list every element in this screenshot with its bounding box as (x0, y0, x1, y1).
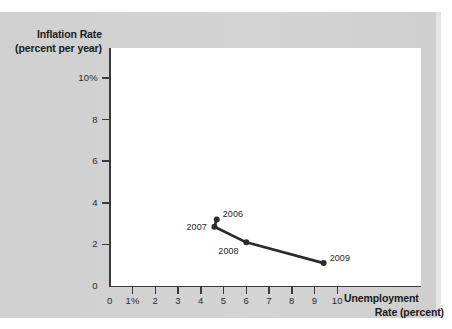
y-axis-title: Inflation Rate (percent per year) (6, 28, 102, 55)
y-axis-title-line1: Inflation Rate (6, 28, 102, 42)
x-tick-mark (268, 287, 270, 294)
x-tick-label-10: 10 (317, 295, 357, 306)
y-tick-label-4: 4 (38, 197, 98, 208)
x-axis-title-line1: Unemployment (344, 291, 448, 305)
data-label-2007: 2007 (186, 222, 206, 232)
y-axis-line (109, 48, 111, 287)
x-tick-mark (177, 287, 179, 294)
x-tick-mark (200, 287, 202, 294)
x-tick-mark (132, 287, 134, 294)
data-label-2008: 2008 (218, 246, 238, 256)
y-tick-mark (102, 244, 109, 246)
y-tick-mark (102, 202, 109, 204)
chart-figure: Inflation Rate (percent per year) Unempl… (0, 0, 452, 329)
y-tick-mark (102, 119, 109, 121)
x-axis-title-line2: Rate (percent) (344, 305, 444, 319)
y-tick-label-0: 0 (38, 280, 98, 291)
y-tick-mark (102, 160, 109, 162)
y-tick-label-6: 6 (38, 155, 98, 166)
figure-panel-shadow (436, 12, 441, 318)
x-tick-mark (155, 287, 157, 294)
y-tick-label-2: 2 (38, 238, 98, 249)
plot-area (110, 48, 421, 286)
x-tick-mark (314, 287, 316, 294)
y-tick-label-10: 10% (38, 72, 98, 83)
x-tick-mark (291, 287, 293, 294)
y-axis-title-line2: (percent per year) (6, 42, 102, 56)
data-label-2009: 2009 (330, 253, 350, 263)
x-tick-mark (337, 287, 339, 294)
data-label-2006: 2006 (223, 209, 243, 219)
x-tick-mark (223, 287, 225, 294)
x-tick-mark (246, 287, 248, 294)
x-axis-title: Unemployment Rate (percent) (344, 291, 448, 319)
y-tick-mark (102, 77, 109, 79)
y-tick-label-8: 8 (38, 114, 98, 125)
